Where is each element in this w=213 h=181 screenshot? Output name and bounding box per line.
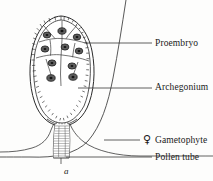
label-proembryo: Proembryo bbox=[155, 39, 198, 49]
label-pollen-tube: Pollen tube bbox=[155, 153, 199, 163]
label-archegonium: Archegonium bbox=[155, 83, 208, 93]
pollen-tube bbox=[47, 119, 77, 158]
venus-female-icon: ♀ bbox=[143, 134, 151, 145]
label-gametophyte: Gametophyte bbox=[155, 136, 207, 146]
figure-caption-letter: a bbox=[64, 167, 69, 176]
figure-container: Proembryo Archegonium ♀ Gametophyte Poll… bbox=[0, 0, 213, 181]
